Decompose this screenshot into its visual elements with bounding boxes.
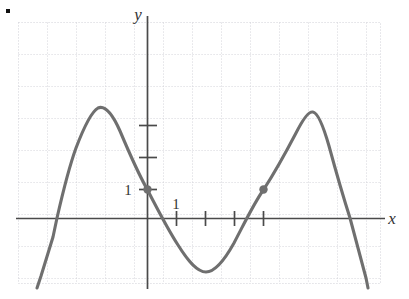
graph-svg: y x 1 1: [0, 0, 409, 299]
y-tick-label-1: 1: [124, 182, 132, 198]
function-curve: [37, 107, 368, 288]
y-axis-label: y: [132, 5, 142, 24]
figure-container: y x 1 1: [0, 0, 409, 299]
graph-plot: y x 1 1: [0, 0, 409, 299]
x-tick-label-1: 1: [172, 196, 180, 212]
curve-point-dot[interactable]: [259, 185, 267, 193]
vertical-gridlines: [48, 23, 367, 284]
y-intercept-dot[interactable]: [143, 185, 151, 193]
horizontal-gridlines: [19, 55, 381, 279]
x-axis-label: x: [387, 209, 396, 228]
